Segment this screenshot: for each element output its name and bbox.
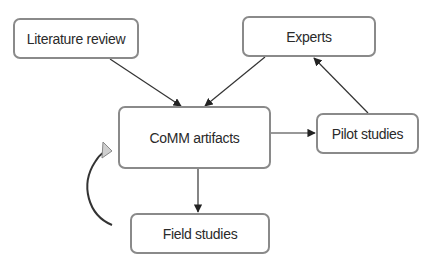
node-comm-artifacts: CoMM artifacts xyxy=(118,106,271,169)
node-literature-review: Literature review xyxy=(13,18,139,59)
node-label: Pilot studies xyxy=(332,126,404,142)
node-pilot-studies: Pilot studies xyxy=(316,113,419,154)
node-experts: Experts xyxy=(242,16,376,57)
node-label: Field studies xyxy=(163,226,238,242)
node-label: Literature review xyxy=(27,31,125,47)
node-label: CoMM artifacts xyxy=(150,130,240,146)
feedback-arrowhead-icon xyxy=(102,142,112,158)
edge-literature-to-comm xyxy=(110,59,181,106)
edge-experts-to-comm xyxy=(205,57,265,106)
edge-pilot-to-experts xyxy=(314,58,368,113)
node-label: Experts xyxy=(286,29,331,45)
edge-field-to-comm-feedback xyxy=(87,152,112,225)
node-field-studies: Field studies xyxy=(130,213,270,254)
